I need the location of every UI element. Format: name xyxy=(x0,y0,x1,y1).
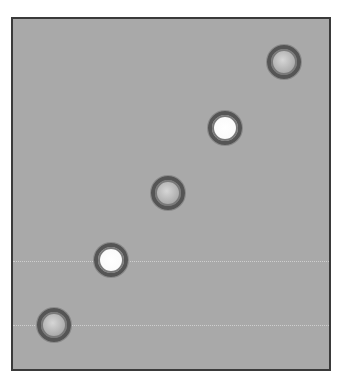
diagram-panel xyxy=(11,17,331,371)
circle-gray-5 xyxy=(37,308,71,342)
circle-gray-1 xyxy=(267,45,301,79)
circle-gray-3 xyxy=(151,176,185,210)
circle-white-2 xyxy=(208,111,242,145)
circle-white-4 xyxy=(94,243,128,277)
dotted-gridline xyxy=(13,261,329,262)
